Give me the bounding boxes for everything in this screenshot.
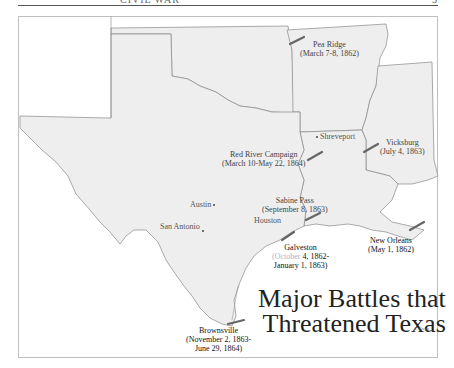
- map-credit: C. Gregg: [414, 326, 429, 331]
- battle-name: Pea Ridge: [300, 40, 359, 49]
- battle-name: Sabine Pass: [262, 196, 328, 205]
- battle-label-new-orleans: New Orleans (May 1, 1862): [368, 236, 414, 254]
- battle-name: Brownsville: [186, 326, 251, 335]
- city-dot-austin: [213, 204, 215, 206]
- battle-dates: (July 4, 1863): [380, 147, 425, 156]
- map-title-line: Threatened Texas: [258, 311, 446, 336]
- battle-dates-part: (October: [272, 252, 300, 261]
- battle-name: Vicksburg: [380, 138, 425, 147]
- battle-dates: (November 2, 1863-: [186, 335, 251, 344]
- city-label-shreveport: Shreveport: [320, 132, 355, 141]
- battle-label-vicksburg: Vicksburg (July 4, 1863): [380, 138, 425, 156]
- city-label-houston: Houston: [254, 216, 281, 225]
- city-label-san-antonio: San Antonio: [160, 222, 200, 231]
- battle-name: Red River Campaign: [222, 150, 306, 159]
- battle-dates: (May 1, 1862): [368, 245, 414, 254]
- city-dot-shreveport: [316, 136, 318, 138]
- battle-label-pea-ridge: Pea Ridge (March 7-8, 1862): [300, 40, 359, 58]
- battle-label-brownsville: Brownsville (November 2, 1863- June 29, …: [186, 326, 251, 353]
- battle-name: Galveston: [272, 243, 329, 252]
- battle-dates: (September 8, 1863): [262, 205, 328, 214]
- battle-dates: (March 7-8, 1862): [300, 49, 359, 58]
- battle-label-red-river: Red River Campaign (March 10-May 22, 186…: [222, 150, 306, 168]
- map-title-line: Major Battles that: [258, 286, 446, 311]
- city-label-austin: Austin: [190, 200, 211, 209]
- battle-dates-part: 4, 1862-: [300, 252, 329, 261]
- battle-label-sabine-pass: Sabine Pass (September 8, 1863): [262, 196, 328, 214]
- battle-dates: June 29, 1864): [186, 344, 251, 353]
- battle-dates: (March 10-May 22, 1864): [222, 159, 306, 168]
- battle-dates: (October 4, 1862-: [272, 252, 329, 261]
- city-dot-san-antonio: [202, 230, 204, 232]
- battle-label-galveston: Galveston (October 4, 1862- January 1, 1…: [272, 243, 329, 270]
- battle-name: New Orleans: [368, 236, 414, 245]
- battle-dates: January 1, 1863): [272, 261, 329, 270]
